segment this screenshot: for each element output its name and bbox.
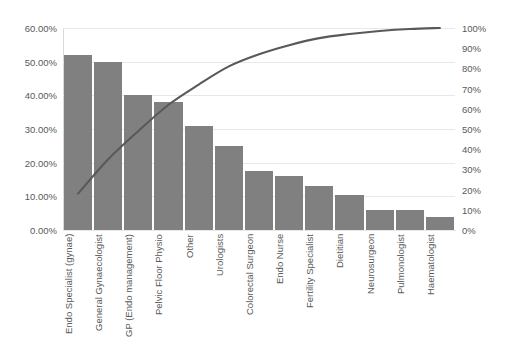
right-axis-tick-label: 20% (462, 184, 481, 195)
right-axis-tick-label: 50% (462, 124, 481, 135)
plot-area (63, 28, 455, 230)
right-axis-tick-label: 100% (462, 23, 486, 34)
right-axis-tick-label: 90% (462, 43, 481, 54)
cumulative-line-series (63, 28, 455, 230)
gridline (63, 230, 455, 231)
category-label: GP (Endo management) (123, 234, 153, 350)
category-label: Endo Specialist (gynae) (63, 234, 93, 350)
category-label: Colorectal Surgeon (244, 234, 274, 350)
category-label: Pulmonologist (395, 234, 425, 350)
left-axis-labels: 0.00%10.00%20.00%30.00%40.00%50.00%60.00… (0, 28, 57, 230)
left-axis-tick-label: 60.00% (25, 23, 57, 34)
left-axis-tick-label: 10.00% (25, 191, 57, 202)
category-axis-labels: Endo Specialist (gynae)General Gynaecolo… (63, 234, 455, 353)
left-axis-tick-label: 20.00% (25, 157, 57, 168)
left-axis-tick-label: 50.00% (25, 56, 57, 67)
category-label: Urologists (214, 234, 244, 350)
left-axis-tick-label: 30.00% (25, 124, 57, 135)
right-axis-tick-label: 0% (462, 225, 476, 236)
category-label: Dietitian (334, 234, 364, 350)
category-label: Other (184, 234, 214, 350)
right-axis-tick-label: 60% (462, 103, 481, 114)
category-label: Endo Nurse (274, 234, 304, 350)
category-label: Neurosurgeon (365, 234, 395, 350)
cumulative-line-path (78, 28, 440, 194)
right-axis-tick-label: 10% (462, 204, 481, 215)
category-label: Pelvic Floor Physio (153, 234, 183, 350)
right-axis-tick-label: 30% (462, 164, 481, 175)
left-axis-tick-label: 40.00% (25, 90, 57, 101)
left-axis-tick-label: 0.00% (30, 225, 57, 236)
right-axis-tick-label: 40% (462, 144, 481, 155)
pareto-chart: 0.00%10.00%20.00%30.00%40.00%50.00%60.00… (0, 0, 506, 353)
right-axis-labels: 0%10%20%30%40%50%60%70%80%90%100% (462, 28, 506, 230)
category-label: Haematologist (425, 234, 455, 350)
right-axis-tick-label: 70% (462, 83, 481, 94)
right-axis-tick-label: 80% (462, 63, 481, 74)
category-label: Fertility Specialist (304, 234, 334, 350)
category-label: General Gynaecologist (93, 234, 123, 350)
